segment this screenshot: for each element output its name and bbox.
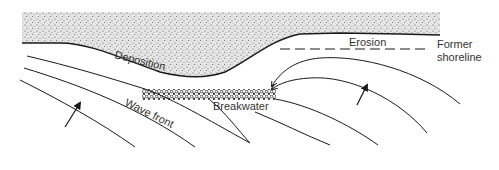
wave-direction-arrow-right xyxy=(357,85,367,105)
former-shoreline-label-1: Former xyxy=(437,38,473,50)
wave-direction-arrow-left xyxy=(65,103,80,127)
wave-front-inner-arc xyxy=(272,78,427,133)
former-shoreline-label-2: shoreline xyxy=(437,51,482,63)
wave-front-right-line-1 xyxy=(275,99,378,145)
breakwater-label: Breakwater xyxy=(213,100,269,112)
breakwater xyxy=(142,89,276,100)
wave-front-line-3 xyxy=(20,80,135,147)
breakwater-diagram: Deposition Erosion Former shoreline Brea… xyxy=(0,0,499,170)
wave-front-line-2 xyxy=(24,68,195,147)
wave-front-outer-arc xyxy=(272,58,460,104)
erosion-label: Erosion xyxy=(349,36,386,48)
wave-front-label: Wave front xyxy=(123,96,176,130)
wave-front-right-line-2 xyxy=(255,112,330,145)
